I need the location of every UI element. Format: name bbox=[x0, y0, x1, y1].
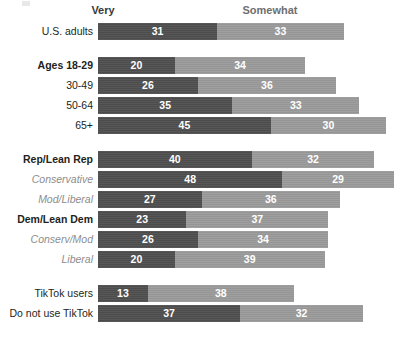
stacked-bar: 2034 bbox=[98, 57, 305, 74]
bar-value-label: 45 bbox=[98, 117, 271, 134]
bar-segment-very: 20 bbox=[98, 57, 175, 74]
column-headers: Very Somewhat bbox=[0, 3, 401, 19]
stacked-bar: 2039 bbox=[98, 251, 325, 268]
row-label: 65+ bbox=[0, 117, 93, 134]
row-label: Do not use TikTok bbox=[0, 305, 93, 322]
row-label: Mod/Liberal bbox=[0, 191, 93, 208]
bar-segment-somewhat: 29 bbox=[282, 171, 393, 188]
bar-value-label: 37 bbox=[98, 305, 240, 322]
bar-segment-very: 37 bbox=[98, 305, 240, 322]
bar-value-label: 20 bbox=[98, 251, 175, 268]
bar-value-label: 27 bbox=[98, 191, 202, 208]
stacked-bar: 3133 bbox=[98, 23, 344, 40]
stacked-bar: 4829 bbox=[98, 171, 394, 188]
row-label: Liberal bbox=[0, 251, 93, 268]
bar-segment-very: 20 bbox=[98, 251, 175, 268]
bar-segment-very: 26 bbox=[98, 77, 198, 94]
bar-segment-somewhat: 34 bbox=[175, 57, 306, 74]
row-label: Dem/Lean Dem bbox=[0, 211, 93, 228]
bar-segment-somewhat: 30 bbox=[271, 117, 386, 134]
chart-row: U.S. adults3133 bbox=[0, 23, 401, 40]
bar-segment-very: 23 bbox=[98, 211, 186, 228]
bar-segment-somewhat: 39 bbox=[175, 251, 325, 268]
row-label: 50-64 bbox=[0, 97, 93, 114]
stacked-bar: 4530 bbox=[98, 117, 386, 134]
bar-value-label: 38 bbox=[148, 285, 294, 302]
chart-row: Rep/Lean Rep4032 bbox=[0, 151, 401, 168]
bar-segment-somewhat: 32 bbox=[240, 305, 363, 322]
bar-segment-very: 45 bbox=[98, 117, 271, 134]
row-label: TikTok users bbox=[0, 285, 93, 302]
row-label: Ages 18-29 bbox=[0, 57, 93, 74]
bar-segment-very: 48 bbox=[98, 171, 282, 188]
bar-value-label: 30 bbox=[271, 117, 386, 134]
bar-value-label: 13 bbox=[98, 285, 148, 302]
row-label: Conserv/Mod bbox=[0, 231, 93, 248]
chart-row: 65+4530 bbox=[0, 117, 401, 134]
stacked-bar: 4032 bbox=[98, 151, 374, 168]
bar-segment-somewhat: 34 bbox=[198, 231, 329, 248]
bar-segment-very: 13 bbox=[98, 285, 148, 302]
bar-value-label: 32 bbox=[240, 305, 363, 322]
stacked-bar-chart: Very Somewhat U.S. adults3133Ages 18-292… bbox=[0, 0, 401, 360]
bar-value-label: 26 bbox=[98, 231, 198, 248]
bar-segment-somewhat: 32 bbox=[252, 151, 375, 168]
chart-row: Ages 18-292034 bbox=[0, 57, 401, 74]
chart-row: Conservative4829 bbox=[0, 171, 401, 188]
row-label: Conservative bbox=[0, 171, 93, 188]
column-header-very: Very bbox=[0, 3, 206, 17]
chart-row: Conserv/Mod2634 bbox=[0, 231, 401, 248]
bar-segment-somewhat: 33 bbox=[217, 23, 344, 40]
bar-value-label: 36 bbox=[198, 77, 336, 94]
bar-value-label: 26 bbox=[98, 77, 198, 94]
bar-segment-very: 26 bbox=[98, 231, 198, 248]
stacked-bar: 2636 bbox=[98, 77, 336, 94]
bar-segment-very: 27 bbox=[98, 191, 202, 208]
bar-segment-somewhat: 33 bbox=[232, 97, 359, 114]
bar-value-label: 29 bbox=[282, 171, 393, 188]
bar-value-label: 34 bbox=[175, 57, 306, 74]
bar-segment-very: 31 bbox=[98, 23, 217, 40]
stacked-bar: 3533 bbox=[98, 97, 359, 114]
bar-value-label: 32 bbox=[252, 151, 375, 168]
bar-value-label: 35 bbox=[98, 97, 232, 114]
row-label: 30-49 bbox=[0, 77, 93, 94]
bar-segment-very: 40 bbox=[98, 151, 252, 168]
bar-value-label: 48 bbox=[98, 171, 282, 188]
bar-value-label: 37 bbox=[186, 211, 328, 228]
bar-value-label: 33 bbox=[232, 97, 359, 114]
bar-value-label: 34 bbox=[198, 231, 329, 248]
bar-value-label: 23 bbox=[98, 211, 186, 228]
row-label: Rep/Lean Rep bbox=[0, 151, 93, 168]
row-label: U.S. adults bbox=[0, 23, 93, 40]
stacked-bar: 2634 bbox=[98, 231, 328, 248]
chart-row: TikTok users1338 bbox=[0, 285, 401, 302]
bar-segment-somewhat: 36 bbox=[202, 191, 340, 208]
stacked-bar: 2337 bbox=[98, 211, 328, 228]
bar-segment-somewhat: 37 bbox=[186, 211, 328, 228]
bar-segment-somewhat: 38 bbox=[148, 285, 294, 302]
chart-row: Mod/Liberal2736 bbox=[0, 191, 401, 208]
column-header-somewhat: Somewhat bbox=[208, 3, 332, 17]
bar-value-label: 33 bbox=[217, 23, 344, 40]
bar-value-label: 31 bbox=[98, 23, 217, 40]
bar-value-label: 40 bbox=[98, 151, 252, 168]
stacked-bar: 3732 bbox=[98, 305, 363, 322]
chart-row: Do not use TikTok3732 bbox=[0, 305, 401, 322]
bar-value-label: 39 bbox=[175, 251, 325, 268]
bar-segment-somewhat: 36 bbox=[198, 77, 336, 94]
chart-row: Dem/Lean Dem2337 bbox=[0, 211, 401, 228]
bar-value-label: 20 bbox=[98, 57, 175, 74]
bar-segment-very: 35 bbox=[98, 97, 232, 114]
stacked-bar: 1338 bbox=[98, 285, 294, 302]
chart-row: 50-643533 bbox=[0, 97, 401, 114]
chart-row: 30-492636 bbox=[0, 77, 401, 94]
chart-row: Liberal2039 bbox=[0, 251, 401, 268]
stacked-bar: 2736 bbox=[98, 191, 340, 208]
bar-value-label: 36 bbox=[202, 191, 340, 208]
